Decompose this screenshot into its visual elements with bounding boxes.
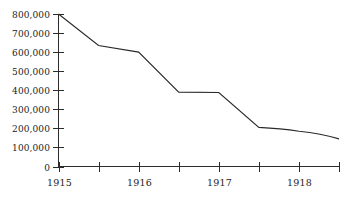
y-axis-tick-label: 700,000	[12, 29, 50, 39]
x-axis: 1915191619171918	[47, 162, 339, 189]
y-axis-tick-label: 200,000	[12, 124, 50, 134]
y-axis-tick-label: 500,000	[12, 67, 50, 77]
data-series-line	[59, 14, 340, 139]
line-chart: 0100,000200,000300,000400,000500,000600,…	[0, 0, 349, 199]
chart-plot-area: 0100,000200,000300,000400,000500,000600,…	[0, 0, 349, 199]
x-axis-tick-label: 1918	[287, 177, 312, 188]
x-axis-tick-label: 1915	[47, 177, 72, 188]
y-axis-tick-label: 800,000	[12, 10, 50, 20]
y-axis-tick-label: 300,000	[12, 105, 50, 115]
x-axis-tick-labels: 1915191619171918	[47, 177, 312, 188]
y-axis: 0100,000200,000300,000400,000500,000600,…	[12, 10, 64, 173]
y-axis-tick-labels: 0100,000200,000300,000400,000500,000600,…	[12, 10, 50, 173]
x-axis-tick-label: 1916	[127, 177, 152, 188]
y-axis-tick-label: 0	[44, 163, 50, 173]
y-axis-tick-label: 600,000	[12, 48, 50, 58]
x-axis-tick-label: 1917	[207, 177, 232, 188]
y-axis-tick-label: 400,000	[12, 86, 50, 96]
y-axis-tick-label: 100,000	[12, 143, 50, 153]
